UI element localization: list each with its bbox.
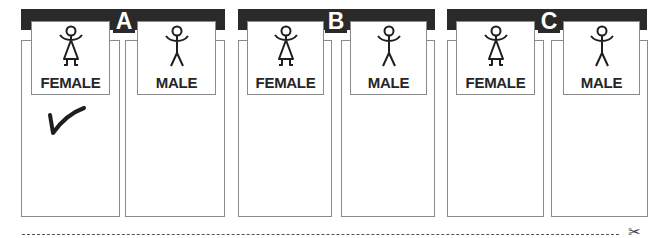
female-figure-icon xyxy=(269,25,303,69)
male-card[interactable]: MALE xyxy=(137,21,216,95)
option-label: FEMALE xyxy=(457,74,534,91)
checkmark-icon xyxy=(46,105,88,137)
male-figure-icon xyxy=(372,25,406,69)
male-figure-icon xyxy=(160,25,194,69)
group-letter: C xyxy=(538,9,560,33)
male-card[interactable]: MALE xyxy=(350,21,427,95)
option-label: MALE xyxy=(138,74,215,91)
group-c: C FEMALE MALE xyxy=(447,9,648,217)
scissors-icon: ✂ xyxy=(628,224,641,238)
female-figure-icon xyxy=(479,25,513,69)
female-card[interactable]: FEMALE xyxy=(31,21,110,95)
group-a: A FEMALE MALE xyxy=(21,9,225,217)
male-figure-icon xyxy=(585,25,619,69)
option-label: FEMALE xyxy=(32,74,109,91)
female-card[interactable]: FEMALE xyxy=(247,21,324,95)
option-label: MALE xyxy=(351,74,426,91)
cut-line xyxy=(22,234,619,235)
female-figure-icon xyxy=(54,25,88,69)
group-b: B FEMALE MALE xyxy=(238,9,435,217)
female-card[interactable]: FEMALE xyxy=(456,21,535,95)
group-letter: A xyxy=(113,9,135,33)
option-label: MALE xyxy=(564,74,639,91)
group-letter: B xyxy=(325,9,347,33)
option-label: FEMALE xyxy=(248,74,323,91)
male-card[interactable]: MALE xyxy=(563,21,640,95)
